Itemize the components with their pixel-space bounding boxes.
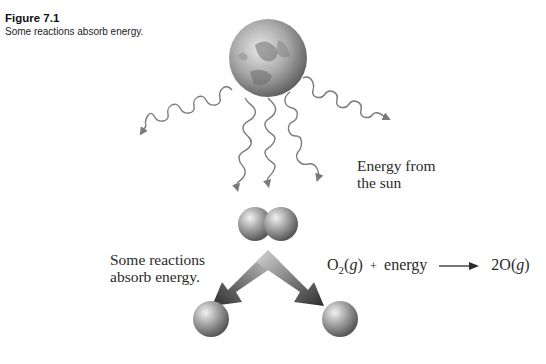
wave-ray-4	[285, 92, 319, 178]
o2-molecule-icon	[238, 207, 298, 241]
split-arrows-icon	[212, 250, 324, 306]
o-atom-right-icon	[322, 301, 358, 337]
wave-ray-2	[237, 98, 256, 188]
reaction-diagram	[0, 0, 546, 364]
sun-icon	[229, 19, 307, 97]
reaction-equation: O2(g)+energy2O(g)	[327, 256, 530, 276]
reaction-arrow-icon	[439, 261, 479, 271]
o-atom-left-icon	[193, 301, 229, 337]
wave-ray-3	[265, 98, 276, 184]
energy-source-label: Energy from the sun	[357, 157, 435, 191]
wave-ray-1	[142, 87, 232, 132]
reaction-note-label: Some reactions absorb energy.	[110, 251, 205, 285]
wave-ray-5	[303, 77, 387, 118]
